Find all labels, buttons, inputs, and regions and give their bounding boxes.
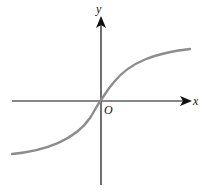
function-graph: x y O	[0, 0, 205, 190]
y-axis-label: y	[95, 2, 102, 16]
origin-label: O	[104, 103, 113, 117]
x-axis-label: x	[192, 94, 199, 108]
